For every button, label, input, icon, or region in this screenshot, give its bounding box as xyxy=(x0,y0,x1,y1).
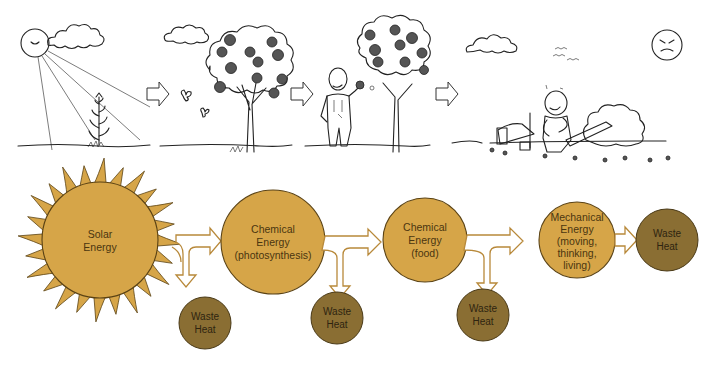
farmer-figure xyxy=(321,68,364,146)
flow-arrow-icon xyxy=(322,229,381,298)
mechanical-energy-node: Mechanical Energy (moving, thinking, liv… xyxy=(539,202,615,278)
ground-line xyxy=(305,145,430,147)
arrow-photosynthesis-to-food xyxy=(322,229,381,298)
food-label-line2: Energy xyxy=(408,234,442,246)
illustration-man-resting xyxy=(452,30,682,162)
arrow-food-to-mechanical xyxy=(464,228,523,295)
illustration-apple-tree xyxy=(160,25,293,152)
apples xyxy=(365,25,429,75)
mechanical-label-line1: Mechanical xyxy=(550,211,603,223)
photosynthesis-label-line1: Chemical xyxy=(251,223,295,235)
waste1-label-line1: Waste xyxy=(191,311,219,322)
apples xyxy=(215,35,288,99)
bush-canopy xyxy=(583,105,644,146)
waste-heat-node-2: Waste Heat xyxy=(311,292,363,344)
sun-ray xyxy=(18,234,44,246)
sun-rays xyxy=(38,51,150,150)
tree-canopy xyxy=(357,15,430,74)
ground-line xyxy=(452,141,666,143)
flow-arrow-icon xyxy=(615,227,637,253)
waste-heat-node-3: Waste Heat xyxy=(457,289,509,341)
waste4-label-line2: Heat xyxy=(656,241,677,252)
butterfly-icon xyxy=(201,108,209,117)
mechanical-label-line5: living) xyxy=(563,259,590,271)
chemical-energy-photosynthesis-node: Chemical Energy (photosynthesis) xyxy=(221,190,325,294)
waste2-label-line1: Waste xyxy=(323,306,351,317)
food-label-line1: Chemical xyxy=(403,221,447,233)
illustration-man-eating-apple xyxy=(305,15,430,152)
tree-trunk xyxy=(237,83,266,152)
cloud-icon xyxy=(48,25,104,49)
sun-ray xyxy=(94,158,106,184)
ground-line xyxy=(160,145,292,147)
flow-arrow-icon xyxy=(464,228,523,295)
mechanical-label-line4: thinking, xyxy=(557,247,596,259)
arrow-solar-to-photosynthesis xyxy=(172,228,221,287)
sketch-arrow-icon xyxy=(291,82,313,106)
illustration-sun-plant xyxy=(18,25,150,150)
angry-sun-icon xyxy=(652,30,682,60)
energy-flow-diagram: Solar Energy Waste Heat Chemical Energy … xyxy=(0,0,710,373)
mechanical-label-line2: Energy xyxy=(560,223,594,235)
solar-energy-node: Solar Energy xyxy=(18,158,182,322)
waste4-label-line1: Waste xyxy=(653,228,681,239)
food-label-line3: (food) xyxy=(411,247,438,259)
tree-trunk xyxy=(383,83,412,152)
flow-arrow-icon xyxy=(176,228,221,287)
waste-heat-node-1: Waste Heat xyxy=(179,297,231,349)
chopped-tree xyxy=(566,105,645,146)
solar-label-line2: Energy xyxy=(83,241,117,253)
mechanical-label-line3: (moving, xyxy=(557,235,597,247)
sun-ray xyxy=(94,296,106,322)
waste3-label-line1: Waste xyxy=(469,303,497,314)
stump-and-axe xyxy=(497,113,534,150)
young-plant-icon xyxy=(88,93,109,147)
arrow-mechanical-to-waste xyxy=(615,227,637,253)
smiling-sun-icon xyxy=(21,29,49,57)
chemical-energy-food-node: Chemical Energy (food) xyxy=(383,198,467,282)
ground-line xyxy=(18,145,150,147)
sketch-arrow-icon xyxy=(147,82,169,106)
waste-heat-node-4: Waste Heat xyxy=(636,209,698,271)
apple-cores xyxy=(490,148,670,162)
waste1-label-line2: Heat xyxy=(194,324,215,335)
butterfly-icon xyxy=(181,90,191,101)
cloud-icon xyxy=(164,25,208,44)
waste2-label-line2: Heat xyxy=(326,319,347,330)
waste3-label-line2: Heat xyxy=(472,316,493,327)
birds-icon xyxy=(553,48,579,61)
sketch-arrow-icon xyxy=(436,82,458,106)
cloud-icon xyxy=(466,35,517,53)
photosynthesis-label-line2: Energy xyxy=(256,236,290,248)
photosynthesis-label-line3: (photosynthesis) xyxy=(234,249,311,261)
solar-label-line1: Solar xyxy=(88,228,113,240)
